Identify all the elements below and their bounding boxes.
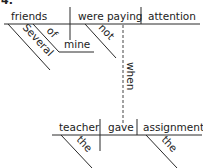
modifier-the-assignment: the [160,133,181,154]
sub-verb: gave [108,121,134,133]
main-clause: friends were paying attention Several of… [4,7,200,70]
main-object: attention [148,10,196,22]
preposition-object-mine: mine [64,38,90,50]
modifier-the-teacher: the [75,133,96,154]
connector-when: when [125,62,137,90]
connector: when [123,25,137,124]
sentence-diagram: 4. friends were paying attention Several… [0,0,203,168]
preposition-of: of [45,24,61,40]
subordinate-clause: teacher gave assignment the the [52,119,203,168]
sub-object: assignment [143,121,203,133]
problem-number: 4. [1,0,13,7]
main-verb: were paying [78,10,142,22]
sub-subject: teacher [59,121,100,133]
